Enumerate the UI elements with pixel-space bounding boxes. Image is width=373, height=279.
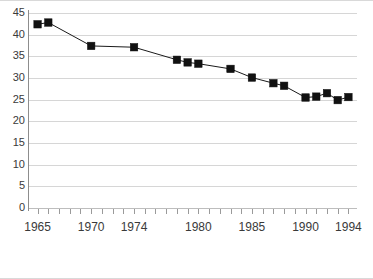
x-tick-1966 (48, 209, 49, 214)
x-tick-1976 (155, 209, 156, 214)
x-tick-1985 (252, 209, 253, 214)
y-tick-label-0: 0 (1, 202, 25, 213)
x-tick-1969 (80, 209, 81, 214)
data-point-1990 (302, 94, 310, 102)
data-point-1985 (248, 74, 256, 82)
x-tick-1975 (145, 209, 146, 214)
y-tick-label-25: 25 (1, 94, 25, 105)
data-point-1983 (227, 65, 235, 73)
x-tick-label-1980: 1980 (185, 220, 212, 234)
x-tick-1991 (316, 209, 317, 214)
x-tick-1981 (209, 209, 210, 214)
x-tick-1993 (338, 209, 339, 214)
x-tick-label-1965: 1965 (24, 220, 51, 234)
x-tick-label-1990: 1990 (292, 220, 319, 234)
x-axis-tick-labels: 1965197019741980198519901994 (0, 220, 373, 238)
series-markers (34, 19, 352, 104)
y-tick-label-35: 35 (1, 50, 25, 61)
x-tick-1978 (177, 209, 178, 214)
x-tick-1965 (38, 209, 39, 214)
data-series (29, 13, 357, 208)
x-axis-ticks (29, 209, 357, 215)
line-chart-figure: 051015202530354045 196519701974198019851… (0, 0, 373, 279)
series-line (38, 23, 349, 101)
y-tick-label-45: 45 (1, 7, 25, 18)
data-point-1991 (313, 93, 321, 101)
data-point-1970 (87, 42, 95, 50)
x-tick-1980 (198, 209, 199, 214)
data-point-1978 (173, 56, 181, 64)
x-tick-1974 (134, 209, 135, 214)
x-tick-1971 (102, 209, 103, 214)
x-tick-1989 (295, 209, 296, 214)
data-point-1966 (45, 19, 53, 27)
x-tick-1973 (123, 209, 124, 214)
y-tick-label-15: 15 (1, 137, 25, 148)
x-tick-1992 (327, 209, 328, 214)
x-tick-1983 (231, 209, 232, 214)
data-point-1994 (345, 93, 353, 101)
y-tick-label-40: 40 (1, 29, 25, 40)
x-tick-1967 (59, 209, 60, 214)
x-tick-label-1974: 1974 (121, 220, 148, 234)
data-point-1988 (280, 82, 288, 90)
x-tick-1977 (166, 209, 167, 214)
plot-area (29, 13, 357, 208)
x-tick-label-1970: 1970 (78, 220, 105, 234)
y-tick-label-10: 10 (1, 159, 25, 170)
y-tick-label-5: 5 (1, 180, 25, 191)
x-tick-1968 (70, 209, 71, 214)
x-tick-1979 (188, 209, 189, 214)
x-tick-label-1994: 1994 (335, 220, 362, 234)
data-point-1974 (130, 43, 138, 51)
data-point-1987 (270, 79, 278, 87)
x-tick-1987 (273, 209, 274, 214)
y-tick-label-30: 30 (1, 72, 25, 83)
x-tick-1972 (113, 209, 114, 214)
x-tick-1982 (220, 209, 221, 214)
top-rule (0, 0, 373, 1)
data-point-1979 (184, 59, 192, 67)
data-point-1980 (195, 60, 203, 67)
data-point-1992 (323, 89, 331, 97)
data-point-1965 (34, 21, 42, 29)
x-tick-1970 (91, 209, 92, 214)
x-tick-1988 (284, 209, 285, 214)
data-point-1993 (334, 96, 342, 104)
x-tick-1986 (263, 209, 264, 214)
x-tick-1984 (241, 209, 242, 214)
x-tick-1994 (348, 209, 349, 214)
y-tick-label-20: 20 (1, 115, 25, 126)
x-tick-label-1985: 1985 (239, 220, 266, 234)
x-tick-1990 (306, 209, 307, 214)
